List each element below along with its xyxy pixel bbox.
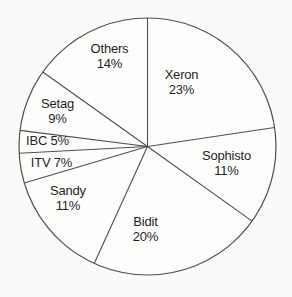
pie-chart: Xeron23%Sophisto11%Bidit20%Sandy11%ITV 7…	[0, 0, 292, 297]
pie-chart-figure: Xeron23%Sophisto11%Bidit20%Sandy11%ITV 7…	[0, 0, 292, 297]
slice-label-bidit: Bidit20%	[133, 214, 159, 244]
slice-label-xeron: Xeron23%	[165, 67, 199, 97]
slice-label-itv: ITV 7%	[31, 155, 73, 170]
slice-label-ibc: IBC 5%	[26, 133, 70, 148]
